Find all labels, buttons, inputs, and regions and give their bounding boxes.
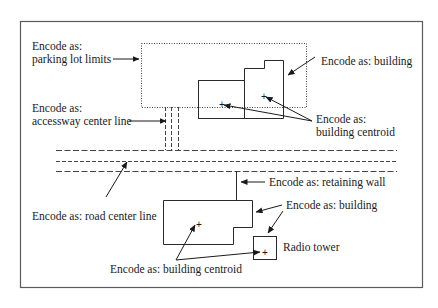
label-building-bottom: Encode as: building bbox=[286, 199, 377, 212]
label-centroid-top-line1: Encode as: bbox=[316, 113, 366, 126]
centroid-marker-bottom: + bbox=[196, 219, 202, 230]
label-radio-tower: Radio tower bbox=[283, 241, 340, 254]
label-road-center-line: Encode as: road center line bbox=[32, 210, 157, 223]
label-accessway-line1: Encode as: bbox=[32, 102, 82, 115]
label-parking-lot-line2: parking lot limits bbox=[32, 53, 111, 66]
label-centroid-bottom: Encode as: building centroid bbox=[110, 263, 242, 276]
label-retaining-wall: Encode as: retaining wall bbox=[269, 176, 386, 189]
centroid-marker-radio-tower: + bbox=[262, 247, 268, 258]
label-accessway-line2: accessway center line bbox=[32, 115, 132, 128]
label-parking-lot-line1: Encode as: bbox=[32, 40, 82, 53]
centroid-marker-top-left: + bbox=[219, 99, 225, 110]
label-centroid-top-line2: building centroid bbox=[316, 126, 395, 139]
label-building-top: Encode as: building bbox=[321, 55, 412, 68]
centroid-marker-top-right: + bbox=[261, 91, 267, 102]
